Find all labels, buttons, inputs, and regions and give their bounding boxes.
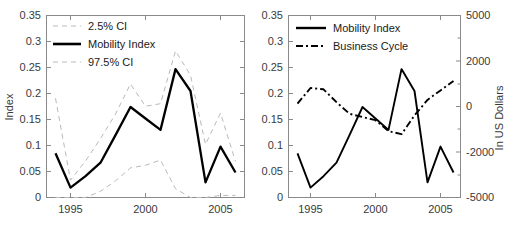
left-ytick-label-2: 0.25 [20, 61, 41, 73]
right-ytick-left-label-3: 0.2 [268, 87, 283, 99]
right-ytick-right-label-4: -5000 [466, 191, 494, 203]
right-yaxis-title: In US Dollars [493, 85, 505, 150]
chart-panel-right: 0.35 0.3 0.25 0.2 0.15 0.1 0.05 0 [258, 0, 516, 230]
right-legend: Mobility Index Business Cycle [296, 22, 408, 52]
right-ytick-right-marks [456, 16, 461, 198]
right-ytick-left-label-6: 0.05 [262, 165, 283, 177]
right-ytick-left-label-7: 0 [277, 191, 283, 203]
right-xtick-label-2: 2005 [428, 203, 452, 215]
right-ytick-left-label-1: 0.3 [268, 35, 283, 47]
chart-panel-left: 0.35 0.3 0.25 0.2 0.15 0.1 0.05 0 Index [0, 0, 258, 230]
right-ytick-left-label-5: 0.1 [268, 139, 283, 151]
left-ytick-label-3: 0.2 [26, 87, 41, 99]
left-xtick-label-2: 2005 [208, 203, 232, 215]
left-ytick-label-1: 0.3 [26, 35, 41, 47]
left-ytick-label-6: 0.05 [20, 165, 41, 177]
right-panel-plot: 0.35 0.3 0.25 0.2 0.15 0.1 0.05 0 [258, 0, 516, 230]
figure-container: 0.35 0.3 0.25 0.2 0.15 0.1 0.05 0 Index [0, 0, 516, 230]
left-yaxis-title: Index [3, 93, 15, 120]
left-xtick-label-1: 2000 [133, 203, 157, 215]
right-ytick-right-label-3: -2000 [466, 146, 494, 158]
left-panel-plot: 0.35 0.3 0.25 0.2 0.15 0.1 0.05 0 Index [0, 0, 258, 230]
right-series-business-cycle [298, 81, 454, 134]
right-ytick-left-label-4: 0.15 [262, 113, 283, 125]
right-ytick-left-label-2: 0.25 [262, 61, 283, 73]
right-ytick-right-label-2: 0 [466, 100, 472, 112]
right-ytick-right-label-0: 5000 [466, 9, 490, 21]
right-ytick-left-label-0: 0.35 [262, 9, 283, 21]
left-series-mobility-index [56, 69, 236, 188]
left-legend-label-mobility: Mobility Index [88, 38, 156, 50]
left-series-ci-upper [56, 51, 236, 180]
left-legend-label-ci-high: 97.5% CI [88, 56, 133, 68]
right-series-mobility-index [298, 69, 454, 188]
left-ytick-label-0: 0.35 [20, 9, 41, 21]
right-xtick-label-1: 2000 [363, 203, 387, 215]
left-xtick-label-0: 1995 [58, 203, 82, 215]
left-ytick-label-7: 0 [35, 191, 41, 203]
right-legend-label-mobility: Mobility Index [333, 22, 401, 34]
right-ytick-right-label-1: 2000 [466, 55, 490, 67]
left-legend: 2.5% CI Mobility Index 97.5% CI [53, 20, 156, 68]
left-legend-label-ci-low: 2.5% CI [88, 20, 127, 32]
right-ytick-left-marks [289, 16, 294, 198]
right-xtick-label-0: 1995 [298, 203, 322, 215]
right-legend-label-cycle: Business Cycle [333, 40, 408, 52]
left-ytick-label-4: 0.15 [20, 113, 41, 125]
left-ytick-label-5: 0.1 [26, 139, 41, 151]
